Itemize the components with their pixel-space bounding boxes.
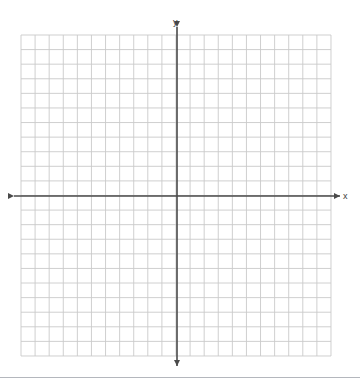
bottom-divider [0, 377, 360, 378]
coordinate-plane: y x [0, 0, 360, 381]
y-axis-label: y [173, 18, 178, 27]
x-axis-label: x [343, 192, 348, 201]
grid-canvas [0, 0, 360, 381]
